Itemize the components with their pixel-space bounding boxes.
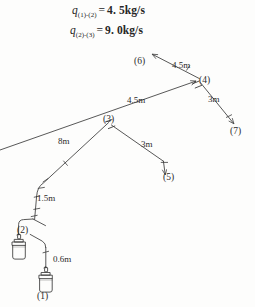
- pipe-node3-to-node5: [111, 125, 167, 174]
- tick-mark: [34, 208, 40, 209]
- node-label-4: (4): [199, 75, 210, 85]
- pipe-spine-node3-node4: [0, 81, 196, 150]
- node-label-1: (1): [37, 291, 48, 301]
- node-label-5: (5): [163, 172, 174, 182]
- node-label-3: (3): [103, 114, 114, 124]
- node-4-marker-2: [195, 85, 201, 88]
- node-label-7: (7): [230, 126, 241, 136]
- dimension-label-8m: 8m: [58, 136, 70, 146]
- node-label-6: (6): [134, 56, 145, 66]
- piping-network-drawing: [0, 0, 255, 307]
- dimension-label-3m-node3-node5: 3m: [141, 139, 153, 149]
- tick-mark: [31, 215, 37, 216]
- dimension-label-3m-node4-node7: 3m: [208, 94, 220, 104]
- dimension-label-0p6m: 0.6m: [53, 254, 71, 264]
- dimension-label-4p5m-node4-node6: 4.5m: [172, 60, 190, 70]
- node-3-marker-2: [108, 126, 114, 129]
- figure-canvas: q(1)-(2)=4. 5kg/s q(2)-(3)=9. 0kg/s: [0, 0, 255, 307]
- node-label-2: (2): [17, 225, 28, 235]
- dimension-label-4p5m-node3-node4: 4.5m: [127, 95, 145, 105]
- cylinder-node-2: [12, 233, 25, 259]
- pipe-node1-to-node2: [30, 234, 46, 267]
- cylinder-node-1: [39, 266, 52, 292]
- dimension-label-1p5m: 1.5m: [37, 193, 55, 203]
